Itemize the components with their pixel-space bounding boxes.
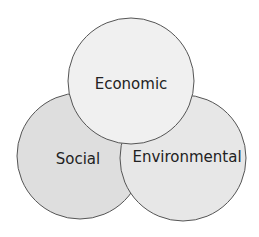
economic-label: Economic bbox=[95, 75, 168, 93]
social-label: Social bbox=[56, 150, 100, 168]
venn-diagram: Economic Social Environmental bbox=[0, 0, 259, 237]
environmental-label: Environmental bbox=[132, 148, 241, 166]
